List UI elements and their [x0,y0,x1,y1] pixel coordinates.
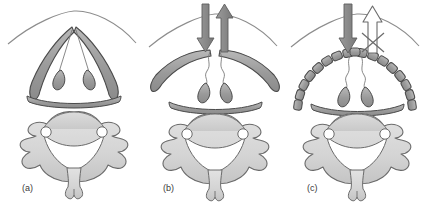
anterior-neck-contour [149,14,277,47]
nodule-right [83,70,95,90]
expiratory-up-arrow [216,4,233,52]
nodule-right [220,83,232,103]
nodule-right [361,87,373,107]
panel-label-b: (b) [163,183,174,193]
tracheal-cartilage-left-limb [151,50,211,92]
suspension-line-left [346,56,350,90]
airway-collapse-figure: (a) (b) [0,0,422,203]
tracheal-cartilage-right-limb [74,27,118,100]
tracheal-cartilage-right-limb [219,50,279,92]
tracheal-cartilage-left-limb [30,27,74,100]
cervical-vertebra [20,112,128,199]
nodule-left [53,70,65,90]
nodule-left [338,87,350,107]
panel-a: (a) [8,11,136,199]
posterior-membrane-bar [27,96,121,108]
blocked-up-arrow [363,6,382,53]
inspiratory-down-arrow [197,4,214,52]
nodule-left [198,83,210,103]
figure-canvas: (a) (b) [0,0,422,203]
panel-label-a: (a) [22,183,33,193]
cervical-vertebra [303,114,411,201]
suspension-line-right [361,56,365,90]
tracheal-cartilage-apex-segment [350,48,360,56]
panel-c: (c) [291,4,419,201]
inspiratory-down-arrow [339,4,357,53]
panel-label-c: (c) [307,183,318,193]
cervical-vertebra [161,114,269,201]
panel-b: (b) [149,4,279,201]
posterior-membrane-bar [169,102,262,114]
